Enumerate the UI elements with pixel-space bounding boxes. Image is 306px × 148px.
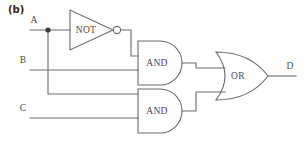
wire-not-to-and1 <box>121 30 138 56</box>
output-label-d: D <box>287 61 294 71</box>
not-gate-label: NOT <box>76 25 96 35</box>
figure-canvas: (b) NOT AND AND OR <box>0 0 306 148</box>
wire-and2-to-or <box>182 92 225 111</box>
junction-dot-a <box>45 27 50 32</box>
logic-circuit-diagram: NOT AND AND OR A B C D <box>0 0 306 148</box>
wire-and1-to-or <box>182 63 225 68</box>
input-label-c: C <box>20 103 26 113</box>
and-gate-1-label: AND <box>146 58 167 68</box>
input-label-a: A <box>31 15 38 25</box>
or-gate-label: OR <box>231 71 245 81</box>
and-gate-2-label: AND <box>146 106 167 116</box>
not-gate-bubble-icon <box>113 26 120 33</box>
input-label-b: B <box>20 55 26 65</box>
